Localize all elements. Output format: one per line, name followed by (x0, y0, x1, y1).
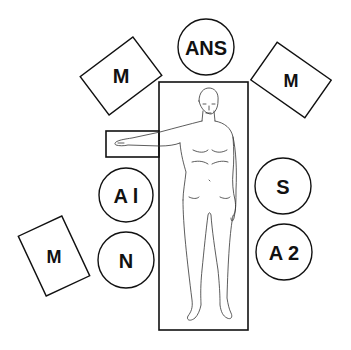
station-a2-label: A 2 (269, 242, 299, 264)
station-m-top-right-label: M (284, 71, 299, 91)
station-s-label: S (276, 176, 289, 198)
station-m-top-left-label: M (113, 65, 130, 87)
station-n-label: N (119, 250, 133, 272)
station-a2: A 2 (256, 224, 312, 280)
patient-legs (183, 200, 233, 320)
operating-table (159, 82, 248, 330)
station-s: S (255, 158, 311, 214)
station-a1-label: A l (114, 185, 139, 207)
station-a1: A l (99, 168, 153, 222)
station-ans: ANS (178, 19, 234, 75)
operating-room-layout: ANS M M A l N M S A 2 (0, 0, 351, 350)
station-m-bottom-left-label: M (47, 247, 62, 267)
station-n: N (98, 232, 154, 288)
station-m-top-right: M (251, 42, 331, 118)
station-ans-label: ANS (185, 37, 227, 59)
arm-board (106, 131, 159, 157)
station-m-top-left: M (80, 37, 162, 115)
patient-head (199, 88, 218, 114)
station-m-bottom-left: M (18, 216, 89, 296)
